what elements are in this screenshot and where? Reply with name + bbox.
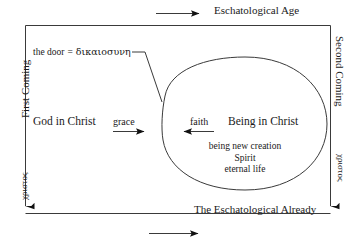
first-coming-label: First Coming xyxy=(20,60,32,118)
attribute-item: being new creation xyxy=(193,141,297,153)
grace-label: grace xyxy=(113,117,135,128)
christos-left-label: χριστος xyxy=(20,173,29,200)
door-label-group: the door=δικαιοσυνη xyxy=(33,47,131,58)
eschatological-age-label: Eschatological Age xyxy=(214,5,299,17)
dikaiosyne-greek-text: δικαιοσυνη xyxy=(76,46,131,57)
door-leader-line xyxy=(132,52,162,102)
being-in-christ-attributes: being new creation Spirit eternal life xyxy=(193,141,297,176)
eschatology-diagram: Eschatological Age The Eschatological Al… xyxy=(0,0,363,245)
being-in-christ-label: Being in Christ xyxy=(228,115,298,127)
faith-label: faith xyxy=(190,117,208,128)
second-coming-label: Second Coming xyxy=(333,36,345,107)
christos-right-label: χριστος xyxy=(336,154,345,181)
eschatological-already-label: The Eschatological Already xyxy=(194,204,316,216)
god-in-christ-label: God in Christ xyxy=(33,115,96,127)
door-label-text: the door xyxy=(33,47,64,57)
attribute-item: Spirit xyxy=(193,153,297,165)
attribute-item: eternal life xyxy=(193,164,297,176)
door-equals-sign: = xyxy=(64,47,75,57)
